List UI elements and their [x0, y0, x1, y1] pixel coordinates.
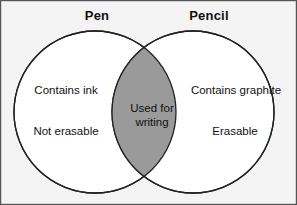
venn-diagram-figure: Pen Pencil Contains ink Not erasable Con…: [0, 0, 297, 205]
left-set-item-2: Not erasable: [16, 124, 116, 138]
header-label-pencil: Pencil: [163, 8, 255, 23]
intersection-label-line-2: writing: [122, 115, 182, 129]
right-set-item-2: Erasable: [185, 124, 285, 138]
intersection-label-line-1: Used for: [122, 101, 182, 115]
left-set-item-1: Contains ink: [16, 83, 116, 97]
header-label-pen: Pen: [57, 8, 137, 23]
intersection-label: Used for writing: [122, 101, 182, 129]
right-set-item-1: Contains graphite: [184, 83, 288, 97]
